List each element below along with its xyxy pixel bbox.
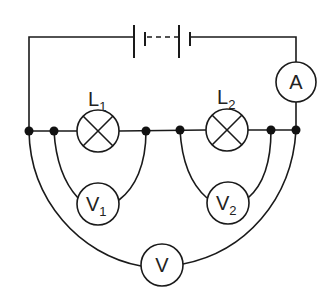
wire-series-line [29, 130, 296, 131]
voltmeter-2: V2 [207, 182, 249, 224]
ammeter-symbol: A [289, 71, 303, 93]
ammeter: A [276, 62, 316, 102]
junction-node [292, 126, 301, 135]
wire-v2-right [248, 130, 271, 198]
lamp-1 [77, 110, 119, 152]
voltmeter-total: V [141, 244, 183, 286]
wire-v1-right [119, 131, 146, 200]
junction-node [267, 126, 276, 135]
lamp-2 [206, 109, 248, 151]
circuit-diagram: A L1 L2 V1 V2 V [0, 0, 325, 308]
battery-icon [134, 25, 190, 58]
voltmeter-total-label: V [155, 254, 169, 276]
wire-top-right [190, 37, 296, 62]
lamp-2-label: L2 [217, 86, 235, 112]
junction-node [142, 127, 151, 136]
junction-node [50, 127, 59, 136]
wire-v2-left [180, 130, 207, 198]
junction-node [25, 127, 34, 136]
voltmeter-1: V1 [77, 183, 119, 225]
junction-node [176, 126, 185, 135]
wire-v1-left [54, 131, 78, 198]
